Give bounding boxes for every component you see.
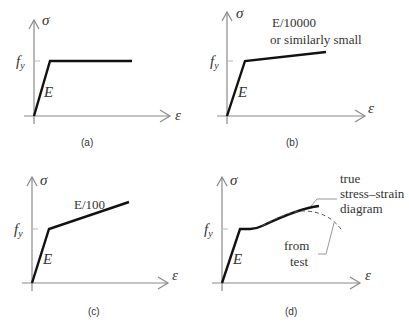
yield-symbol: fy [16,53,25,71]
stress-symbol: σ [230,172,238,188]
caption-b: (b) [286,137,298,148]
test-label-line2: test [290,254,308,269]
strain-symbol: ε [365,267,371,283]
stress-symbol: σ [236,5,244,21]
panel-b: σ ε fy E E/10000 or similarly small (b) [210,5,374,148]
annotation-slope: E/100 [74,197,105,212]
stress-symbol: σ [42,12,50,28]
modulus-symbol: E [232,251,242,267]
caption-d: (d) [285,306,297,317]
true-label-line3: diagram [340,201,383,216]
yield-symbol: fy [14,221,23,239]
leader-line-true [311,199,337,206]
yield-symbol: fy [210,53,219,71]
stress-strain-figure: σ ε fy E (a) σ ε fy E E/10000 or similar… [0,0,409,330]
stress-symbol: σ [40,172,48,188]
annotation-slope: E/10000 [272,15,316,30]
stress-strain-curve [32,202,129,283]
true-label-line1: true [340,171,360,186]
panel-c: σ ε fy E E/100 (c) [14,172,178,317]
panel-a: σ ε fy E (a) [16,12,181,148]
strain-symbol: ε [172,267,178,283]
true-label-line2: stress–strain [340,186,405,201]
caption-c: (c) [88,306,100,317]
test-label-line1: from [284,238,309,253]
modulus-symbol: E [43,84,53,100]
strain-symbol: ε [368,100,374,116]
annotation-note: or similarly small [270,32,362,47]
leader-line-test [318,223,334,254]
modulus-symbol: E [237,84,247,100]
caption-a: (a) [81,137,93,148]
modulus-symbol: E [42,251,52,267]
yield-symbol: fy [204,221,213,239]
panel-d: σ ε fy E true stress–strain diagram from… [204,171,405,317]
strain-symbol: ε [175,107,181,123]
